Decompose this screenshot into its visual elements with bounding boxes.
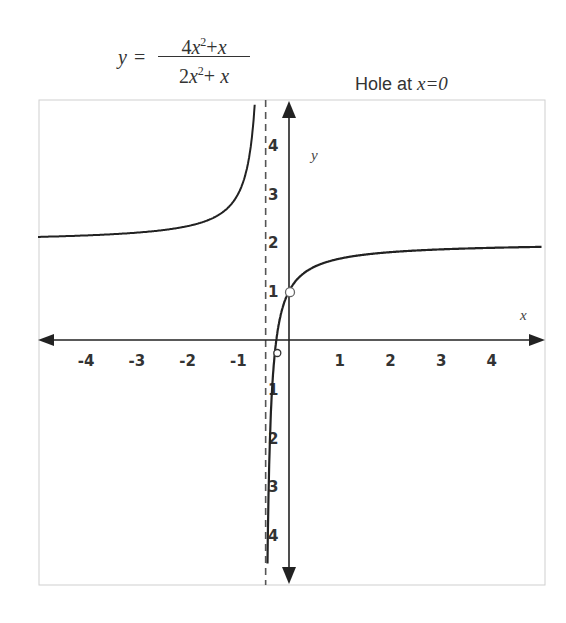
left-branch-curve — [38, 105, 255, 237]
x-axis-right-arrow-icon — [529, 334, 545, 346]
axes — [38, 101, 545, 584]
y-tick-label: 4 — [268, 137, 278, 155]
x-tick-label: -2 — [179, 352, 196, 370]
intercept-marker — [274, 350, 281, 357]
y-tick-label: 4 — [268, 527, 278, 545]
x-tick-label: 1 — [334, 352, 344, 370]
tick-labels: -4-3-2-1123443211234 — [78, 137, 497, 545]
x-tick-label: -1 — [230, 352, 247, 370]
x-tick-label: 3 — [436, 352, 446, 370]
x-tick-label: -4 — [78, 352, 95, 370]
y-axis-label: y — [309, 147, 318, 163]
plot-frame — [39, 100, 545, 585]
x-tick-label: 2 — [385, 352, 395, 370]
x-tick-label: -3 — [129, 352, 146, 370]
y-axis-down-arrow-icon — [282, 567, 296, 584]
plot-area: -4-3-2-1123443211234 x y — [0, 0, 566, 623]
x-tick-label: 4 — [487, 352, 497, 370]
y-axis-up-arrow-icon — [282, 101, 296, 118]
x-axis-left-arrow-icon — [38, 334, 54, 346]
y-tick-label: 2 — [268, 234, 278, 252]
right-branch-curve — [268, 247, 542, 564]
y-tick-label: 1 — [268, 283, 278, 301]
x-axis-label: x — [519, 307, 527, 323]
y-tick-label: 3 — [268, 186, 278, 204]
hole-marker — [286, 288, 295, 297]
